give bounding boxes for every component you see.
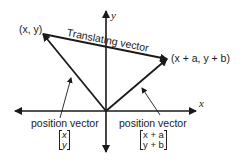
end-point-label: (x + a, y + b) — [171, 53, 230, 64]
y-axis-label: y — [111, 10, 116, 21]
left-position-matrix: x y — [59, 130, 70, 150]
position-vector-right — [106, 59, 167, 111]
right-position-vector-caption: position vector — [119, 118, 187, 129]
x-axis-label: x — [199, 98, 204, 109]
leader-line-left — [60, 78, 71, 118]
start-point-label: (x, y) — [19, 24, 42, 35]
right-position-matrix: x + a y + b — [140, 130, 167, 150]
left-position-vector-caption: position vector — [31, 118, 99, 129]
matrix-entry: y — [62, 140, 67, 150]
matrix-entry: y + b — [143, 140, 164, 150]
